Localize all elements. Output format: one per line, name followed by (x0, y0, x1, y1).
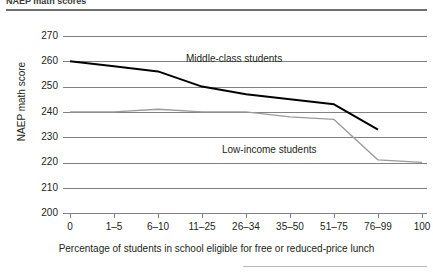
series-label-middle-class: Middle-class students (186, 53, 282, 64)
chart-figure: NAEP math scores 270 260 250 240 230 220… (0, 0, 433, 273)
bottom-divider-rule (243, 266, 427, 267)
series-label-low-income: Low-income students (222, 144, 317, 155)
series-lines (0, 0, 433, 273)
